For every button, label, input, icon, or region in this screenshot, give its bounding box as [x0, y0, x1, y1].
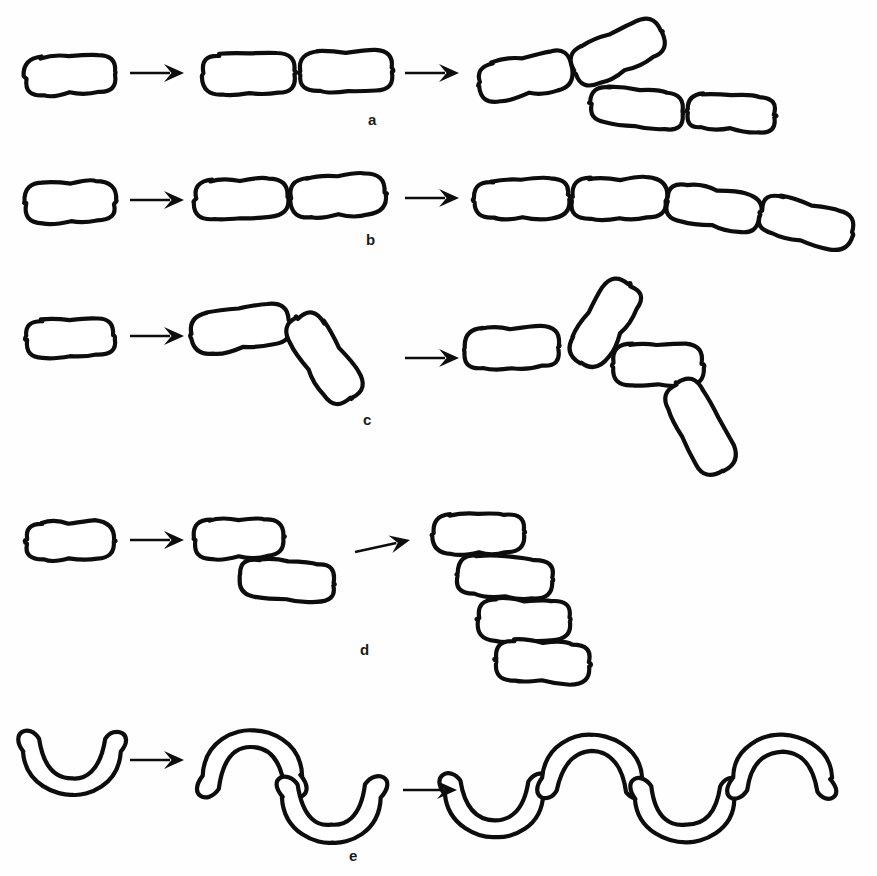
stage-a-1 [23, 54, 116, 98]
row-label-a: a [368, 112, 376, 127]
stage-e-2 [197, 730, 387, 843]
bacterial-cell [474, 46, 576, 105]
transition-arrow [405, 349, 459, 367]
bacterial-cell [657, 372, 742, 481]
transition-arrow [130, 64, 184, 82]
bacterial-cell [564, 12, 671, 93]
division-row-e [18, 730, 836, 843]
bacterial-cell [187, 301, 293, 358]
transition-arrow [355, 536, 410, 554]
bacterial-cell [193, 177, 289, 220]
division-row-c [25, 272, 743, 481]
bacterial-cell [663, 180, 765, 236]
row-label-e: e [349, 848, 357, 863]
bacterial-cell [193, 516, 286, 560]
bacterial-cell [23, 54, 116, 98]
stage-b-1 [24, 180, 117, 225]
division-row-b [24, 171, 859, 254]
row-label-c: c [363, 412, 371, 427]
division-row-a [23, 12, 778, 134]
bacterial-division-figure: abcde [0, 0, 877, 876]
stage-a-2 [201, 48, 394, 96]
bacterial-cell [727, 735, 836, 799]
bacterial-cell [493, 638, 592, 686]
stage-a-3 [474, 12, 777, 134]
bacterial-cell [571, 177, 667, 220]
bacterial-cell [278, 305, 369, 412]
bacterial-cell [472, 177, 571, 222]
bacterial-cell [277, 776, 388, 843]
stage-c-2 [187, 301, 369, 411]
stage-e-1 [18, 731, 126, 795]
bacterial-cell [201, 51, 297, 96]
transition-arrow [130, 327, 184, 345]
bacterial-cell [431, 512, 525, 555]
arrow-shaft [355, 543, 396, 552]
bacterial-cell [18, 731, 126, 795]
figure-canvas [0, 0, 877, 876]
bacterial-cell [238, 557, 336, 604]
bacterial-cell [288, 171, 389, 221]
bacterial-cell [25, 318, 116, 359]
stage-c-3 [463, 272, 742, 481]
bacterial-cell [630, 778, 740, 843]
transition-arrow [405, 64, 459, 82]
bacterial-cell [455, 553, 555, 602]
stage-d-1 [24, 520, 116, 562]
bacterial-cell [299, 48, 394, 93]
bacterial-cell [755, 191, 858, 254]
bacterial-cell [439, 773, 549, 837]
division-row-d [24, 512, 592, 685]
stage-b-2 [193, 171, 389, 221]
transition-arrow [130, 751, 184, 769]
stage-d-3 [431, 512, 592, 685]
bacterial-cell [24, 520, 116, 562]
row-label-b: b [366, 232, 375, 247]
bacterial-cell [24, 180, 117, 225]
bacterial-cell [477, 598, 571, 642]
bacterial-cell [587, 83, 686, 132]
stage-d-2 [193, 516, 336, 604]
row-label-d: d [360, 642, 369, 657]
bacterial-cell [463, 325, 560, 371]
stage-c-1 [25, 318, 116, 359]
stage-e-3 [439, 735, 836, 843]
transition-arrow [405, 189, 459, 207]
bacterial-cell [686, 92, 778, 134]
transition-arrow [130, 531, 184, 549]
transition-arrow [130, 191, 184, 209]
stage-b-3 [472, 177, 858, 255]
